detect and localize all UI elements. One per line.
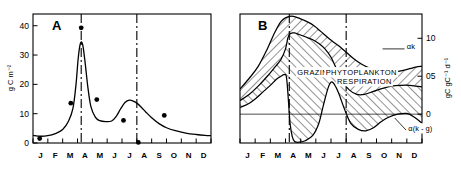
- month-label: M: [275, 151, 282, 160]
- annotation: PHYTOPLANKTON: [325, 67, 399, 77]
- annotation-label: αk: [407, 42, 415, 51]
- month-label: M: [96, 151, 103, 160]
- month-label: N: [396, 151, 402, 160]
- y-tick-label: 10: [20, 109, 30, 119]
- month-label: O: [381, 151, 387, 160]
- month-label: S: [156, 151, 162, 160]
- month-label: F: [53, 151, 58, 160]
- panel-a-y-axis-title: g C m⁻²: [6, 64, 15, 91]
- figure-container: A g C m⁻² 010203040 JFMAMJJASOND: [0, 0, 461, 170]
- month-label: D: [412, 151, 418, 160]
- annotation-label: α(k - g): [408, 124, 432, 133]
- month-label: O: [171, 151, 177, 160]
- annotation: αk: [406, 41, 417, 51]
- month-label: A: [290, 151, 296, 160]
- panel-b: 00510 JFMAMJJASOND GRAZINGPHYTOPLANKTONR…: [228, 0, 461, 170]
- y-tick-label: 05: [426, 71, 436, 81]
- annotation-label: PHYTOPLANKTON: [326, 68, 397, 77]
- data-point: [68, 101, 73, 106]
- panel-a: A g C m⁻² 010203040 JFMAMJJASOND: [0, 0, 228, 170]
- month-label: J: [336, 151, 340, 160]
- data-point: [79, 25, 84, 30]
- data-point: [37, 136, 42, 141]
- month-label: F: [260, 151, 265, 160]
- data-point: [94, 97, 99, 102]
- annotation-label: RESPIRATION: [337, 77, 392, 86]
- panel-b-letter: B: [258, 18, 267, 33]
- panel-b-y-axis-title: gC gC⁻¹ d⁻¹: [443, 57, 452, 98]
- y-tick-label: 0: [24, 138, 29, 148]
- month-label: J: [38, 151, 42, 160]
- y-tick-label: 10: [426, 33, 436, 43]
- month-label: S: [366, 151, 372, 160]
- data-point: [162, 113, 167, 118]
- month-label: J: [245, 151, 249, 160]
- month-label: M: [67, 151, 74, 160]
- month-label: D: [201, 151, 207, 160]
- y-tick-label: 30: [20, 50, 30, 60]
- y-tick-label: 40: [20, 21, 30, 31]
- panel-b-svg: 00510 JFMAMJJASOND GRAZINGPHYTOPLANKTONR…: [228, 0, 461, 170]
- data-point: [121, 118, 126, 123]
- panel-a-svg: A g C m⁻² 010203040 JFMAMJJASOND: [0, 0, 228, 170]
- y-tick-label: 0: [426, 109, 431, 119]
- month-label: J: [112, 151, 116, 160]
- month-label: A: [82, 151, 88, 160]
- panel-a-letter: A: [52, 18, 62, 33]
- month-label: J: [321, 151, 325, 160]
- month-label: A: [351, 151, 357, 160]
- month-label: J: [127, 151, 131, 160]
- month-label: M: [305, 151, 312, 160]
- annotation: RESPIRATION: [336, 76, 393, 86]
- month-label: A: [141, 151, 147, 160]
- annotation: α(k - g): [407, 123, 434, 133]
- data-point: [136, 140, 141, 145]
- y-tick-label: 20: [20, 79, 30, 89]
- month-label: N: [186, 151, 192, 160]
